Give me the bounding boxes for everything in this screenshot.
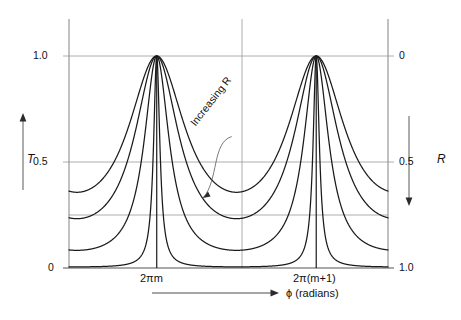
transmission-chart [0, 0, 461, 320]
y-left-tick-0.5: 0.5 [33, 155, 48, 167]
x-tick-2pim-plus-1: 2π(m+1) [293, 272, 336, 284]
y-right-tick-0: 0 [399, 49, 405, 61]
y-left-tick-0: 0 [48, 261, 54, 273]
x-axis-label: ϕ (radians) [286, 287, 339, 299]
y-right-axis-label: R [437, 152, 446, 166]
y-left-tick-1: 1.0 [33, 49, 48, 61]
y-right-tick-0.5: 0.5 [399, 155, 414, 167]
y-right-tick-1: 1.0 [399, 261, 414, 273]
x-tick-2pim: 2πm [140, 272, 163, 284]
